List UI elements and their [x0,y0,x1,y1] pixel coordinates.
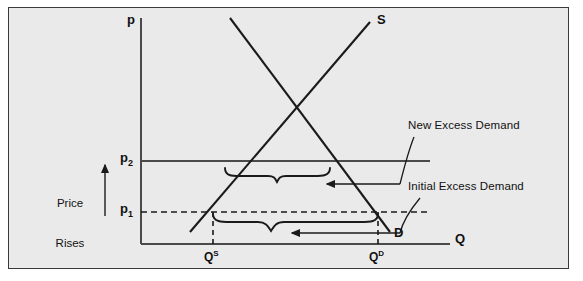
quantity-tick-qd: QD [369,249,384,265]
demand-curve [230,18,390,232]
price-rises-line-2: Rises [42,237,98,250]
price-tick-p2-subscript: 2 [128,158,133,168]
new-excess-demand-label: New Excess Demand [408,119,520,132]
price-tick-p1-base: p [120,201,128,216]
quantity-axis-label: Q [455,232,465,247]
initial-excess-demand-brace [213,214,378,231]
quantity-tick-qs: QS [204,249,219,265]
demand-curve-label: D [394,226,403,241]
new-excess-demand-brace [225,168,330,182]
quantity-tick-qs-superscript: S [213,249,218,258]
initial-excess-demand-label: Initial Excess Demand [408,180,524,193]
quantity-tick-qd-base: Q [369,250,378,264]
supply-curve [190,22,370,232]
supply-curve-label: S [377,13,386,28]
quantity-tick-qs-base: Q [204,250,213,264]
supply-demand-figure: p Q p2 p1 QS QD S D New Excess Demand In… [0,0,583,281]
price-tick-p1-subscript: 1 [128,209,133,219]
price-tick-p1: p1 [120,202,133,219]
price-rises-note: Price Rises [42,171,98,277]
price-axis-label: p [127,13,135,28]
quantity-tick-qd-superscript: D [378,249,384,258]
price-tick-p2: p2 [120,151,133,168]
price-tick-p2-base: p [120,150,128,165]
price-rises-line-1: Price [42,197,98,210]
